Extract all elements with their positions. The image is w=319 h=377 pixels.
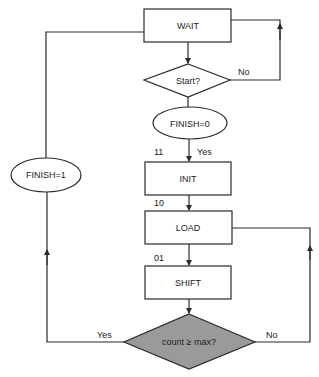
init-state-code: 11 [154, 148, 163, 157]
edge-finish1-wait [46, 32, 144, 158]
edge-count-yes [47, 192, 124, 342]
count-no-label: No [266, 331, 278, 340]
finish0-label: FINISH=0 [170, 120, 210, 129]
start-label: Start? [176, 77, 200, 86]
edge-count-no [232, 228, 310, 342]
count-yes-label: Yes [97, 331, 112, 340]
count-check-label: count ≥ max? [162, 338, 216, 347]
wait-label: WAIT [177, 22, 199, 31]
load-label: LOAD [176, 224, 201, 233]
start-no-label: No [238, 68, 250, 77]
load-state-code: 10 [154, 199, 164, 208]
shift-state-code: 01 [154, 254, 164, 263]
flowchart-canvas [0, 0, 319, 377]
shift-label: SHIFT [175, 279, 201, 288]
finish1-label: FINISH=1 [26, 171, 66, 180]
init-label: INIT [180, 175, 197, 184]
start-yes-label: Yes [197, 148, 212, 157]
